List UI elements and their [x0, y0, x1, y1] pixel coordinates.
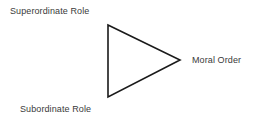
label-moral-order: Moral Order — [192, 55, 241, 66]
label-subordinate-role: Subordinate Role — [20, 104, 91, 115]
label-superordinate-role: Superordinate Role — [10, 6, 89, 17]
diagram-canvas: Superordinate Role Subordinate Role Mora… — [0, 0, 254, 125]
triangle-outline-icon — [108, 25, 180, 97]
